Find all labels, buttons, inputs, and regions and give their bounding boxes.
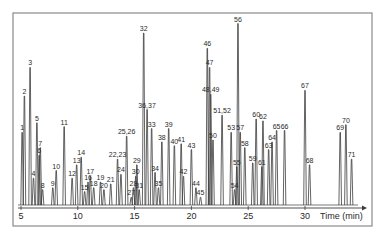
peak-label: 42 <box>180 168 188 175</box>
peak <box>120 174 123 205</box>
peak-label: 6 <box>37 147 41 154</box>
peak-label: 50 <box>209 132 217 139</box>
peak <box>83 192 86 205</box>
peak-label: 53 <box>227 124 235 131</box>
peak-label: 70 <box>342 117 350 124</box>
peak-label: 55 <box>233 159 241 166</box>
peak-label: 29 <box>133 157 141 164</box>
peak <box>173 146 176 205</box>
peak-label: 15 <box>81 184 89 191</box>
peak <box>283 131 286 205</box>
peak <box>350 159 353 205</box>
x-tick-label: 25 <box>243 211 253 221</box>
x-tick-label: 10 <box>73 211 83 221</box>
peak-label: 48,49 <box>202 86 220 93</box>
peak-label: 1 <box>20 124 24 131</box>
peak-label: 35 <box>155 180 163 187</box>
peak <box>271 142 274 205</box>
peak <box>103 190 106 205</box>
peak <box>154 173 157 205</box>
peak <box>308 165 311 205</box>
peak <box>157 188 160 205</box>
peak-label: 30 <box>132 168 140 175</box>
peak-label: 5 <box>35 115 39 122</box>
peak-label: 34 <box>151 165 159 172</box>
peak-label: 62 <box>259 113 267 120</box>
peak-label: 11 <box>61 119 68 126</box>
peak <box>221 115 224 205</box>
peak-label: 71 <box>348 151 356 158</box>
peak-label: 21 <box>107 176 115 183</box>
peak-label: 10 <box>52 163 60 170</box>
chromatogram-plot: 12345678910111213141516171819202122,2324… <box>0 0 384 235</box>
peak-label: 43 <box>188 142 196 149</box>
peak <box>63 127 66 205</box>
peak <box>92 188 95 205</box>
peak-label: 38 <box>158 134 166 141</box>
peak <box>237 24 240 205</box>
peak <box>251 163 254 205</box>
peak-label: 8 <box>41 182 45 189</box>
peak <box>138 190 141 205</box>
peak <box>23 96 26 205</box>
peak-label: 56 <box>234 16 242 23</box>
chromatogram-trace <box>18 24 358 205</box>
peak <box>109 184 112 205</box>
peak <box>275 131 278 205</box>
peak-label: 51,52 <box>213 107 231 114</box>
peak-label: 61 <box>258 159 266 166</box>
peak-label: 13 <box>73 157 81 164</box>
peak-label: 32 <box>140 25 148 32</box>
peak-label: 46 <box>203 40 211 47</box>
peak <box>32 178 35 205</box>
peak <box>230 132 233 205</box>
peak-label: 39 <box>165 121 173 128</box>
peak-label: 63 <box>265 142 273 149</box>
peak <box>345 125 348 205</box>
x-axis-arrow-icon <box>362 206 367 211</box>
peak-label: 41 <box>177 136 185 143</box>
peak-label: 2 <box>22 88 26 95</box>
peak-label: 4 <box>32 170 36 177</box>
peak <box>182 176 185 205</box>
peak-label: 66 <box>281 123 289 130</box>
peak-label: 22,23 <box>109 151 127 158</box>
peak-label: 19 <box>97 174 105 181</box>
peak <box>267 150 270 205</box>
peak-label: 3 <box>28 59 32 66</box>
peak-label: 47 <box>206 59 214 66</box>
peak-label: 59 <box>249 155 257 162</box>
peak-label: 25,26 <box>118 128 136 135</box>
peak-label: 27 <box>127 189 135 196</box>
peak-label: 31 <box>135 182 143 189</box>
peak <box>304 90 307 205</box>
peak <box>52 188 55 205</box>
x-tick-label: 30 <box>300 211 310 221</box>
peak-label: 54 <box>231 182 239 189</box>
peak <box>29 67 32 205</box>
peak <box>161 142 164 205</box>
peak-label: 36,37 <box>138 102 156 109</box>
peak-label: 45 <box>197 189 205 196</box>
peak <box>80 157 83 205</box>
peak-label: 24 <box>117 166 125 173</box>
x-tick-label: 20 <box>186 211 196 221</box>
chromatogram-figure: 12345678910111213141516171819202122,2324… <box>0 0 384 235</box>
peak <box>199 197 202 205</box>
peak-label: 67 <box>301 82 309 89</box>
peak <box>71 178 74 205</box>
peak-label: 64 <box>268 134 276 141</box>
peak-label: 44 <box>192 180 200 187</box>
peak-label: 14 <box>77 149 85 156</box>
peak-label: 9 <box>51 180 55 187</box>
peak <box>243 148 246 205</box>
peak <box>339 132 342 205</box>
peak <box>190 150 193 205</box>
x-axis-title: Time (min) <box>320 211 363 221</box>
peak-label: 57 <box>236 124 244 131</box>
peak <box>55 171 58 205</box>
x-tick-label: 15 <box>130 211 140 221</box>
peak-label: 68 <box>306 157 314 164</box>
peak-label: 33 <box>148 121 156 128</box>
peak-label: 17 <box>86 168 94 175</box>
